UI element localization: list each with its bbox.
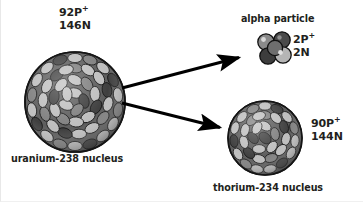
arrow-to-thorium (122, 103, 220, 128)
uranium-protons: 92P (59, 6, 82, 19)
thorium-neutrons: 144N (311, 130, 343, 143)
alpha-particle-cluster (258, 32, 291, 64)
uranium-neutrons: 146N (59, 19, 91, 32)
alpha-decay-diagram: 92P+146N alpha particle 2P+2N 90P+144N u… (0, 0, 363, 202)
alpha-protons-charge: + (309, 31, 316, 40)
thorium-caption: thorium-234 nucleus (213, 182, 323, 193)
uranium-protons-charge: + (82, 4, 89, 13)
alpha-particle-title: alpha particle (241, 13, 314, 24)
alpha-neutrons: 2N (293, 46, 310, 59)
thorium-protons-charge: + (334, 115, 341, 124)
thorium-composition-label: 90P+144N (311, 118, 343, 144)
uranium-composition-label: 92P+146N (59, 7, 91, 33)
thorium-nucleus-sphere (228, 101, 302, 175)
arrow-to-alpha (122, 58, 239, 89)
uranium-caption: uranium-238 nucleus (11, 153, 123, 164)
thorium-protons: 90P (311, 117, 334, 130)
uranium-nucleus-sphere (25, 52, 125, 152)
alpha-composition-label: 2P+2N (293, 34, 315, 60)
diagram-graphics (1, 0, 363, 202)
alpha-protons: 2P (293, 33, 309, 46)
